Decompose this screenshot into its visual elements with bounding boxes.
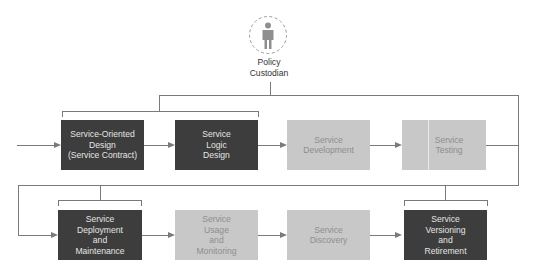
box-label: Service Usage and Monitoring [196,214,236,256]
arrow-icon [395,142,402,148]
custodian-label-line2: Custodian [238,68,300,79]
left-bracket-l [58,200,59,206]
custodian-label: Policy Custodian [238,57,300,79]
right-bracket [404,200,488,201]
arrow-icon [54,142,61,148]
left-bracket-stem [100,185,101,200]
box-service-usage[interactable]: Service Usage and Monitoring [175,210,258,260]
box-label: Service Testing [435,135,464,156]
arrow-icon [168,232,175,238]
right-bracket-l [404,200,405,206]
connector [370,235,396,236]
top-horizontal [159,95,519,96]
arrow-icon [51,232,58,238]
arrow-icon [395,232,402,238]
box-label: Service Development [303,135,354,156]
box-label: Service Versioning and Retirement [424,214,466,256]
connector [370,145,396,146]
box-service-development[interactable]: Service Development [287,120,370,170]
top-bracket [62,111,259,112]
box-label: Service Deployment and Maintenance [75,214,124,256]
top-bracket-right [258,111,259,117]
box-label: Service Logic Design [202,129,231,161]
left-bracket-r [141,200,142,206]
person-icon [248,15,288,55]
box-label: Service Discovery [310,225,348,246]
left-entry [18,235,52,236]
box-service-logic-design[interactable]: Service Logic Design [175,120,258,170]
connector [142,235,169,236]
right-vertical [518,95,519,186]
right-bracket-r [487,200,488,206]
box-service-deployment[interactable]: Service Deployment and Maintenance [58,210,142,260]
left-vertical [18,185,19,236]
arrow-icon [280,142,287,148]
connector [144,145,169,146]
connector [258,235,281,236]
arrow-icon [168,142,175,148]
connector [258,145,281,146]
top-bracket-stem [159,95,160,111]
right-bracket-stem [445,185,446,200]
testing-divider [428,120,429,170]
bottom-horizontal [18,185,519,186]
box-service-discovery[interactable]: Service Discovery [287,210,370,260]
top-bracket-left [62,111,63,117]
entry-line [17,145,55,146]
custodian-stem [270,82,271,96]
left-bracket [58,200,142,201]
custodian-label-line1: Policy [238,57,300,68]
box-label: Service-Oriented Design (Service Contrac… [68,129,137,161]
box-service-oriented-design[interactable]: Service-Oriented Design (Service Contrac… [61,120,144,170]
box-service-versioning[interactable]: Service Versioning and Retirement [404,210,487,260]
box-service-testing[interactable]: Service Testing [402,120,486,170]
testing-out [486,145,519,146]
arrow-icon [280,232,287,238]
